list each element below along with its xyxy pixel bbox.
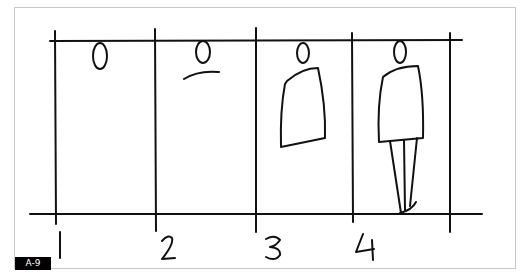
leg-left-4 [390, 141, 401, 213]
storyboard-sketch [0, 0, 526, 279]
head-1 [93, 43, 107, 69]
leg-right-4 [410, 138, 417, 206]
divider-4 [352, 33, 353, 222]
number-4 [356, 234, 374, 260]
leg-mid-4 [404, 140, 405, 210]
number-2 [162, 237, 175, 259]
head-4 [394, 41, 406, 63]
head-2 [196, 41, 210, 63]
head-3 [297, 43, 309, 63]
divider-1 [55, 31, 56, 224]
shoulders-2 [184, 72, 219, 79]
divider-2 [155, 29, 156, 231]
number-3 [266, 237, 280, 259]
figure-label-badge: A-9 [15, 257, 51, 270]
torso-4 [379, 66, 424, 142]
foot-4 [400, 202, 416, 213]
torso-3 [281, 68, 325, 147]
